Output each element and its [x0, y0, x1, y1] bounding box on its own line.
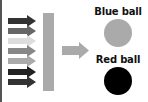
red-ball-label: Red ball: [93, 54, 143, 65]
blue-ball-circle: [104, 19, 132, 47]
filter-bar: [43, 13, 54, 91]
input-arrow: [8, 76, 36, 88]
input-arrow: [8, 35, 36, 47]
input-arrow: [8, 55, 36, 67]
input-arrow: [8, 66, 36, 78]
red-ball-circle: [104, 67, 132, 95]
input-arrows: [8, 15, 36, 88]
input-arrow: [8, 45, 36, 57]
input-arrow: [8, 15, 36, 27]
output-arrow: [62, 42, 89, 59]
input-arrow: [8, 25, 36, 37]
blue-ball-label: Blue ball: [93, 6, 143, 17]
